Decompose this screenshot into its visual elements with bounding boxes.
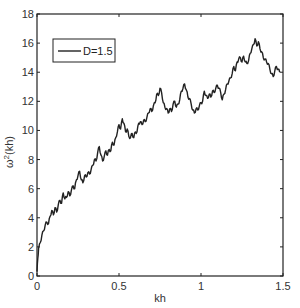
x-tick-label: 0.5 — [111, 280, 126, 292]
y-tick-label: 2 — [28, 241, 34, 253]
y-tick-label: 16 — [22, 37, 34, 49]
y-tick-label: 6 — [28, 183, 34, 195]
x-tick-label: 1.5 — [275, 280, 290, 292]
legend: D=1.5 — [53, 39, 115, 62]
y-tick-label: 4 — [28, 212, 34, 224]
y-tick-label: 8 — [28, 154, 34, 166]
x-axis-label: kh — [154, 292, 166, 304]
y-tick-label: 14 — [22, 66, 34, 78]
y-tick-label: 10 — [22, 124, 34, 136]
legend-label: D=1.5 — [83, 45, 113, 57]
chart: 00.511.5 024681012141618 kh ω2(kh) D=1.5 — [0, 0, 300, 308]
y-tick-label: 18 — [22, 8, 34, 20]
x-tick-label: 1 — [198, 280, 204, 292]
x-tick-label: 0 — [34, 280, 40, 292]
y-tick-label: 0 — [28, 270, 34, 282]
y-axis-label: ω2(kh) — [2, 136, 15, 168]
y-tick-label: 12 — [22, 95, 34, 107]
